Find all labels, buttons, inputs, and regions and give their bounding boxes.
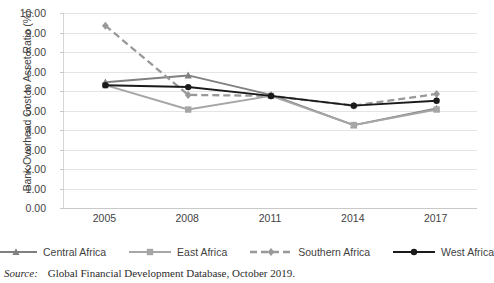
data-point-marker bbox=[185, 84, 191, 90]
data-point-marker bbox=[351, 122, 357, 128]
chart-legend: Central AfricaEast AfricaSouthern Africa… bbox=[0, 246, 488, 258]
series-west-africa bbox=[102, 82, 440, 109]
y-axis-tick-mark bbox=[60, 208, 64, 209]
data-point-marker bbox=[268, 248, 275, 256]
data-point-marker bbox=[268, 93, 274, 99]
source-note: Source: Global Financial Development Dat… bbox=[4, 267, 295, 279]
data-point-marker bbox=[351, 102, 357, 108]
y-axis-tick-label: 8.00 bbox=[0, 46, 46, 58]
series-east-africa bbox=[102, 82, 440, 128]
y-axis-tick-label: 6.00 bbox=[0, 85, 46, 97]
legend-swatch bbox=[0, 246, 38, 258]
x-axis-tick-label: 2011 bbox=[235, 212, 305, 224]
plot-area: 0.001.002.003.004.005.006.007.008.009.00… bbox=[63, 13, 477, 208]
data-point-marker bbox=[433, 98, 439, 104]
y-axis-tick-label: 2.00 bbox=[0, 163, 46, 175]
y-axis-tick-label: 3.00 bbox=[0, 144, 46, 156]
data-point-marker bbox=[147, 249, 153, 255]
y-axis-tick-label: 7.00 bbox=[0, 66, 46, 78]
y-axis-tick-label: 10.00 bbox=[0, 7, 46, 19]
x-axis-tick-label: 2017 bbox=[401, 212, 471, 224]
data-point-marker bbox=[433, 106, 439, 112]
legend-item-central-africa[interactable]: Central Africa bbox=[0, 246, 106, 258]
legend-label: East Africa bbox=[177, 246, 227, 258]
x-axis-tick-label: 2014 bbox=[318, 212, 388, 224]
source-label: Source: bbox=[4, 267, 38, 279]
data-point-marker bbox=[411, 249, 417, 255]
y-axis-tick-label: 4.00 bbox=[0, 124, 46, 136]
legend-swatch bbox=[249, 246, 293, 258]
y-axis-tick-label: 0.00 bbox=[0, 202, 46, 214]
legend-label: West Africa bbox=[441, 246, 494, 258]
data-point-marker bbox=[185, 106, 191, 112]
legend-label: Southern Africa bbox=[298, 246, 370, 258]
legend-item-southern-africa[interactable]: Southern Africa bbox=[249, 246, 370, 258]
y-axis-tick-label: 9.00 bbox=[0, 27, 46, 39]
legend-swatch bbox=[392, 246, 436, 258]
data-point-marker bbox=[433, 90, 440, 98]
series-layer bbox=[64, 13, 478, 208]
data-point-marker bbox=[102, 82, 108, 88]
legend-item-east-africa[interactable]: East Africa bbox=[128, 246, 227, 258]
y-axis-tick-label: 1.00 bbox=[0, 183, 46, 195]
legend-swatch bbox=[128, 246, 172, 258]
x-axis-tick-label: 2005 bbox=[69, 212, 139, 224]
legend-item-west-africa[interactable]: West Africa bbox=[392, 246, 494, 258]
source-text: Global Financial Development Database, O… bbox=[48, 267, 295, 279]
gridline bbox=[64, 208, 477, 209]
x-axis-tick-label: 2008 bbox=[152, 212, 222, 224]
legend-label: Central Africa bbox=[43, 246, 106, 258]
y-axis-tick-label: 5.00 bbox=[0, 105, 46, 117]
